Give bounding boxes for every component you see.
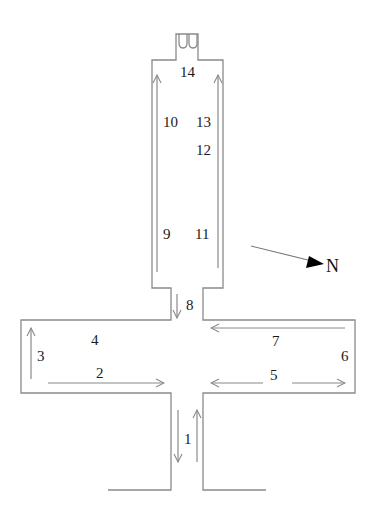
location-labels: 1 2 3 4 5 6 7 8 9 10 11 12 13 14 xyxy=(37,64,349,447)
label-2: 2 xyxy=(96,365,104,381)
stall-u-left xyxy=(179,34,187,48)
label-1: 1 xyxy=(184,431,192,447)
label-10: 10 xyxy=(163,114,178,130)
north-arrow-shaft xyxy=(251,246,312,261)
left-wall xyxy=(21,34,355,490)
label-9: 9 xyxy=(163,226,171,242)
label-12: 12 xyxy=(196,142,211,158)
north-indicator: N xyxy=(251,246,339,276)
label-4: 4 xyxy=(91,332,99,348)
stall-u-right xyxy=(189,34,197,48)
label-14: 14 xyxy=(180,64,196,80)
label-3: 3 xyxy=(37,348,45,364)
floor-plan-diagram: 1 2 3 4 5 6 7 8 9 10 11 12 13 14 N xyxy=(0,0,373,518)
north-label: N xyxy=(326,256,339,276)
label-13: 13 xyxy=(196,114,211,130)
label-11: 11 xyxy=(195,226,209,242)
label-6: 6 xyxy=(341,348,349,364)
label-8: 8 xyxy=(186,297,194,313)
route-arrows xyxy=(31,75,345,462)
north-arrow-head-icon xyxy=(306,256,324,268)
label-5: 5 xyxy=(270,367,278,383)
label-7: 7 xyxy=(272,333,280,349)
building-walls xyxy=(21,34,355,490)
